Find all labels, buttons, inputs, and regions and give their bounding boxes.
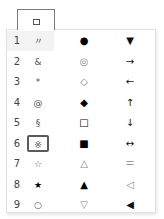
symbol-cell[interactable]: ★ xyxy=(28,175,48,195)
symbol-cell[interactable]: ◆ xyxy=(71,93,97,113)
symbol-cell[interactable]: ◇ xyxy=(71,72,97,92)
list-item[interactable]: 9 ○ ▽ ◀ xyxy=(7,195,155,215)
list-item[interactable]: 7 ☆ △ ＝ xyxy=(7,154,155,174)
symbol-cell[interactable]: ↔ xyxy=(117,134,143,154)
symbol-cell[interactable]: ○ xyxy=(28,195,48,215)
list-item[interactable]: 2 & ◎ → xyxy=(7,52,155,72)
symbol-cell[interactable]: ▽ xyxy=(71,195,97,215)
symbol-cell[interactable]: △ xyxy=(71,154,97,174)
symbol-cell[interactable]: & xyxy=(28,52,48,72)
symbol-cell[interactable]: □ xyxy=(71,113,97,133)
symbol-cell[interactable]: → xyxy=(117,52,143,72)
list-item[interactable]: 4 @ ◆ ↑ xyxy=(7,93,155,113)
symbol-cell[interactable]: 〃 xyxy=(28,31,48,51)
symbol-cell[interactable]: ▲ xyxy=(71,175,97,195)
list-item[interactable]: 8 ★ ▲ ◁ xyxy=(7,175,155,195)
symbol-cell[interactable]: @ xyxy=(28,93,48,113)
symbol-cell[interactable]: ＝ xyxy=(117,154,143,174)
symbol-cell[interactable]: ◁ xyxy=(117,175,143,195)
symbol-cell[interactable]: ◎ xyxy=(71,52,97,72)
symbol-cell[interactable]: § xyxy=(28,113,48,133)
row-number: 6 xyxy=(9,134,25,154)
row-number: 7 xyxy=(9,154,25,174)
small-square-icon xyxy=(33,19,40,25)
row-number: 4 xyxy=(9,93,25,113)
row-number: 2 xyxy=(9,52,25,72)
list-item[interactable]: 6 ※ ■ ↔ xyxy=(7,134,155,154)
symbol-cell[interactable]: ↓ xyxy=(117,113,143,133)
symbol-cell[interactable]: ▼ xyxy=(117,31,143,51)
row-number: 8 xyxy=(9,175,25,195)
symbol-cell[interactable]: ◀ xyxy=(117,195,143,215)
symbol-cell[interactable]: * xyxy=(28,72,48,92)
symbol-cell[interactable]: ☆ xyxy=(28,154,48,174)
row-number: 9 xyxy=(9,195,25,215)
row-number: 3 xyxy=(9,72,25,92)
symbol-cell[interactable]: ● xyxy=(71,31,97,51)
list-item[interactable]: 5 § □ ↓ xyxy=(7,113,155,133)
list-item[interactable]: 3 * ◇ ← xyxy=(7,72,155,92)
row-number: 1 xyxy=(9,31,25,51)
list-item[interactable]: 1 〃 ● ▼ xyxy=(7,31,155,51)
symbol-picker-button[interactable] xyxy=(17,9,55,30)
symbol-dropdown-panel: 1 〃 ● ▼ 2 & ◎ → 3 * ◇ ← 4 @ ◆ ↑ 5 § □ ↓ … xyxy=(6,29,156,213)
symbol-cell-focused[interactable]: ※ xyxy=(27,135,49,152)
symbol-cell[interactable]: ↑ xyxy=(117,93,143,113)
symbol-cell[interactable]: ■ xyxy=(71,134,97,154)
row-number: 5 xyxy=(9,113,25,133)
symbol-cell[interactable]: ← xyxy=(117,72,143,92)
